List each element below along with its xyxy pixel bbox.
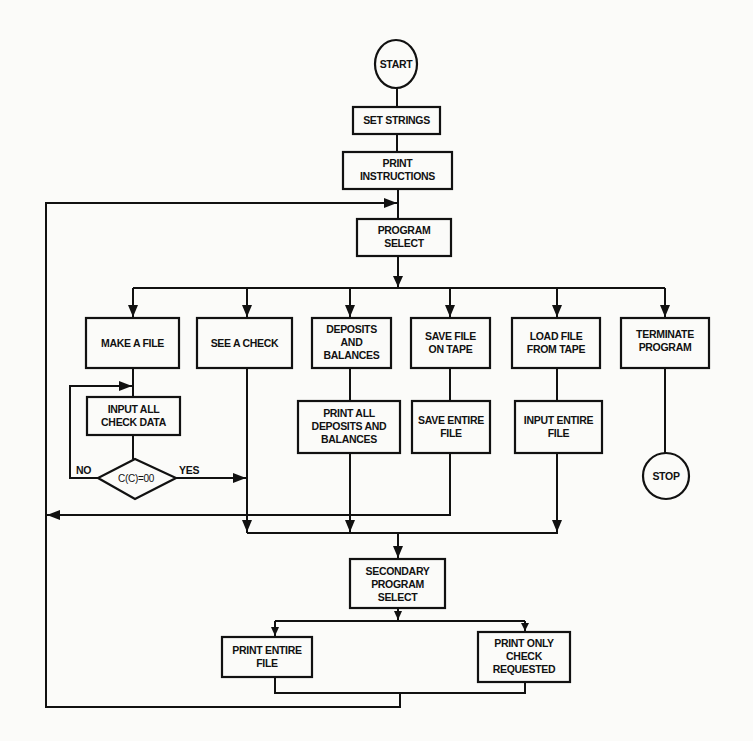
node-label: PROGRAM [378, 224, 431, 236]
arrow-down-icon [445, 305, 455, 317]
node-stop[interactable]: STOP [643, 453, 689, 499]
arrow-down-icon [393, 546, 403, 558]
arrow-left-icon [47, 510, 60, 520]
node-label: CHECK DATA [101, 416, 167, 428]
node-label: CHECK [506, 650, 543, 662]
node-label: MAKE A FILE [101, 337, 164, 349]
node-label: SET STRINGS [363, 114, 430, 126]
arrow-down-icon [660, 305, 670, 317]
node-label: REQUESTED [493, 663, 556, 675]
node-save-file-on-tape[interactable]: SAVE FILE ON TAPE [411, 318, 490, 368]
node-label: TERMINATE [636, 328, 694, 340]
node-print-entire-file[interactable]: PRINT ENTIRE FILE [222, 637, 312, 677]
node-label: SEE A CHECK [211, 337, 279, 349]
node-input-all-check-data[interactable]: INPUT ALL CHECK DATA [87, 397, 180, 435]
node-terminate-program[interactable]: TERMINATE PROGRAM [621, 318, 709, 368]
node-label: AND [341, 336, 364, 348]
node-set-strings[interactable]: SET STRINGS [353, 107, 440, 134]
node-label: START [380, 58, 414, 70]
arrow-down-icon [521, 623, 529, 631]
arrow-down-icon [552, 520, 562, 532]
node-save-entire-file[interactable]: SAVE ENTIRE FILE [412, 401, 490, 453]
node-label: PROGRAM [639, 341, 692, 353]
node-label: ON TAPE [429, 343, 473, 355]
node-label: FILE [548, 427, 570, 439]
node-label: SELECT [384, 237, 425, 249]
node-print-all-deposits[interactable]: PRINT ALL DEPOSITS AND BALANCES [298, 401, 400, 453]
node-decision-check-condition[interactable]: C(C)=00 [98, 459, 176, 499]
arrow-down-icon [242, 305, 252, 317]
edge-input-entire-join [247, 453, 557, 533]
arrow-right-icon [233, 473, 246, 483]
node-label: PRINT ALL [323, 407, 376, 419]
node-label: PROGRAM [371, 578, 424, 590]
arrow-right-icon [384, 198, 397, 208]
node-secondary-program-select[interactable]: SECONDARY PROGRAM SELECT [350, 559, 445, 608]
node-label: SELECT [378, 591, 419, 603]
node-label: SAVE FILE [425, 330, 476, 342]
nodes: START SET STRINGS PRINT INSTRUCTIONS PRO… [76, 40, 709, 682]
node-label: LOAD FILE [530, 330, 583, 342]
node-program-select[interactable]: PROGRAM SELECT [357, 219, 451, 256]
node-label: SECONDARY [365, 565, 429, 577]
arrow-down-icon [345, 305, 355, 317]
node-label: INPUT ENTIRE [524, 414, 594, 426]
arrow-down-icon [393, 276, 403, 287]
node-see-a-check[interactable]: SEE A CHECK [197, 318, 292, 368]
arrow-down-icon [242, 520, 252, 532]
arrow-down-icon [552, 305, 562, 317]
node-make-a-file[interactable]: MAKE A FILE [86, 318, 179, 368]
node-label: INPUT ALL [108, 403, 161, 415]
node-label: PRINT [382, 157, 413, 169]
edge-label-yes: YES [179, 464, 199, 476]
node-label: PRINT ONLY [494, 637, 554, 649]
node-label: PRINT ENTIRE [232, 644, 302, 656]
arrow-down-icon [128, 305, 138, 317]
arrow-down-icon [394, 611, 402, 620]
node-label: BALANCES [324, 349, 380, 361]
node-label: DEPOSITS AND [312, 420, 387, 432]
node-print-instructions[interactable]: PRINT INSTRUCTIONS [343, 152, 452, 189]
node-label: INSTRUCTIONS [360, 170, 435, 182]
node-deposits-and-balances[interactable]: DEPOSITS AND BALANCES [312, 318, 391, 368]
edge-label-no: NO [76, 464, 91, 476]
node-start[interactable]: START [375, 40, 417, 88]
node-load-file-from-tape[interactable]: LOAD FILE FROM TAPE [512, 318, 600, 368]
node-label: C(C)=00 [118, 473, 155, 484]
arrow-down-icon [345, 520, 355, 532]
node-input-entire-file[interactable]: INPUT ENTIRE FILE [515, 401, 602, 453]
node-label: FILE [256, 657, 278, 669]
node-label: FROM TAPE [527, 343, 586, 355]
node-label: SAVE ENTIRE [418, 414, 484, 426]
edge-return-loop [46, 203, 400, 707]
arrow-right-icon [119, 381, 132, 391]
node-label: DEPOSITS [326, 323, 377, 335]
node-label: FILE [440, 427, 462, 439]
node-label: STOP [652, 470, 679, 482]
flowchart-canvas: START SET STRINGS PRINT INSTRUCTIONS PRO… [0, 0, 753, 741]
node-print-only-check-requested[interactable]: PRINT ONLY CHECK REQUESTED [478, 632, 570, 682]
node-label: BALANCES [321, 433, 377, 445]
arrow-down-icon [271, 627, 279, 636]
